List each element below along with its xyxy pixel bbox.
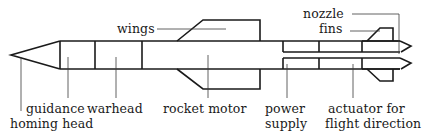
label-warhead: warhead <box>87 102 143 116</box>
label-supply: supply <box>265 117 307 131</box>
label-rocket-motor: rocket motor <box>163 102 247 116</box>
fin-bottom <box>367 69 393 81</box>
label-power: power <box>265 102 305 116</box>
label-guidance: guidance <box>26 102 85 116</box>
nose-cone <box>11 41 60 69</box>
label-actuator: actuator for <box>328 102 405 116</box>
leader-nozzle <box>352 14 399 54</box>
label-fins: fins <box>319 22 343 36</box>
fin-top <box>367 28 393 41</box>
missile-diagram: wings nozzle fins guidance homing head w… <box>0 0 427 137</box>
label-flight-direction: flight direction <box>325 117 421 131</box>
label-nozzle: nozzle <box>303 7 344 21</box>
label-homing-head: homing head <box>10 117 93 131</box>
wing-top <box>177 20 260 41</box>
wing-bottom <box>177 69 260 89</box>
label-wings: wings <box>117 22 155 36</box>
